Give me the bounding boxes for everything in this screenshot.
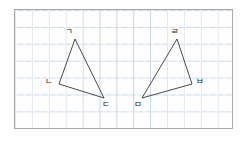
triangles-layer: [0, 0, 247, 144]
vertex-label-mieum: ㅁ: [134, 100, 142, 109]
geometry-figure: ㄱ ㄴ ㄷ ㄹ ㅁ ㅂ: [0, 0, 247, 144]
triangle-left-outline: [59, 39, 104, 98]
vertex-label-digeut: ㄷ: [102, 100, 110, 109]
triangle-right-outline: [142, 39, 192, 98]
vertex-label-rieul: ㄹ: [171, 27, 179, 36]
vertex-label-giyeok: ㄱ: [65, 27, 73, 36]
vertex-label-nieun: ㄴ: [45, 77, 53, 86]
vertex-label-bieup: ㅂ: [196, 77, 204, 86]
